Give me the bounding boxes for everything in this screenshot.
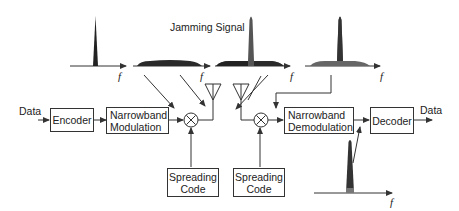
rx-multiplier bbox=[254, 113, 268, 127]
spectrum-received bbox=[305, 17, 380, 67]
decoder-block: Decoder bbox=[370, 107, 414, 134]
spreading-rx-line-1: Spreading bbox=[235, 171, 283, 183]
modulation-line-1: Narrowband bbox=[110, 109, 167, 121]
tx-multiplier bbox=[184, 113, 198, 127]
rx-antenna bbox=[233, 84, 254, 120]
demodulation-line-2: Demodulation bbox=[288, 121, 353, 133]
freq-label-1: f bbox=[118, 70, 121, 82]
spreading-tx-line-2: Code bbox=[180, 183, 205, 195]
narrowband-demodulation-block: Narrowband Demodulation bbox=[284, 107, 354, 134]
freq-label-5: f bbox=[390, 196, 393, 208]
data-in-label: Data bbox=[19, 105, 41, 117]
freq-label-2: f bbox=[200, 70, 203, 82]
spreading-tx-line-1: Spreading bbox=[169, 171, 217, 183]
spread-spectrum-diagram: Jamming Signal f f f f f Data Data Encod… bbox=[0, 0, 459, 211]
freq-label-3: f bbox=[290, 70, 293, 82]
tx-jammer-arrow bbox=[248, 76, 261, 100]
demodulation-line-1: Narrowband bbox=[288, 109, 345, 121]
spectrum-despread bbox=[314, 140, 392, 193]
spectrum-narrowband bbox=[70, 16, 126, 66]
encoder-label: Encoder bbox=[52, 114, 91, 126]
spreading-code-tx-block: Spreading Code bbox=[167, 168, 219, 197]
jamming-signal-title: Jamming Signal bbox=[170, 21, 245, 33]
spreading-rx-line-2: Code bbox=[246, 183, 271, 195]
freq-label-4: f bbox=[380, 70, 383, 82]
modulation-line-2: Modulation bbox=[110, 121, 161, 133]
data-out-label: Data bbox=[420, 104, 442, 116]
spectrum-spread bbox=[133, 60, 210, 66]
spreading-code-rx-block: Spreading Code bbox=[233, 168, 285, 197]
encoder-block: Encoder bbox=[50, 108, 94, 132]
decoder-label: Decoder bbox=[372, 115, 412, 127]
narrowband-modulation-block: Narrowband Modulation bbox=[106, 107, 169, 134]
